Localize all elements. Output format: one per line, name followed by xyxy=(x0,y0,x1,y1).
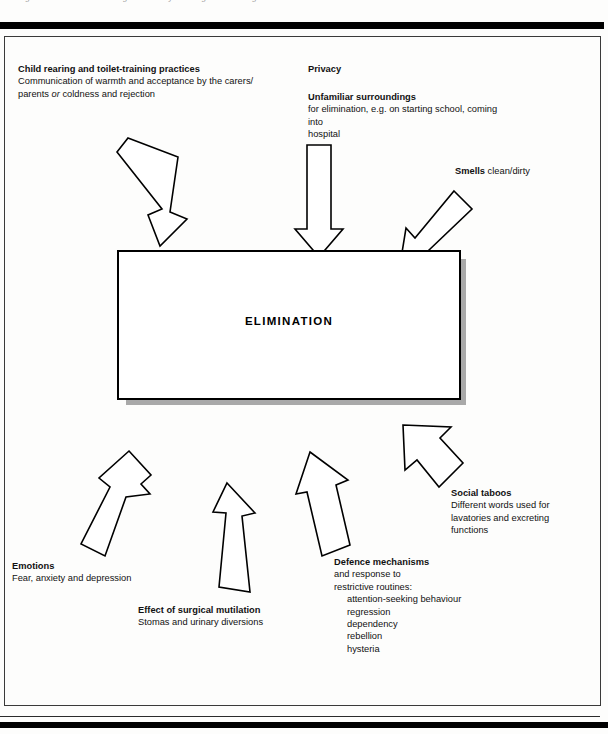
label-social-taboos-heading: Social taboos xyxy=(451,487,601,499)
label-privacy: Privacy xyxy=(308,63,508,75)
label-emotions: Emotions Fear, anxiety and depression xyxy=(12,560,212,585)
label-defence-line-2: restrictive routines: xyxy=(334,581,504,593)
label-unfamiliar-line-1: for elimination, e.g. on starting school… xyxy=(308,103,513,128)
arrow-privacy-unfamiliar xyxy=(295,145,343,257)
bottom-hairline xyxy=(0,716,600,717)
label-effect-line-1: Stomas and urinary diversions xyxy=(138,616,358,628)
label-social-taboos-line-2: lavatories and excreting xyxy=(451,512,601,524)
label-effect-heading: Effect of surgical mutilation xyxy=(138,604,358,616)
label-defence-sub-4: rebellion xyxy=(334,630,504,642)
bottom-rule xyxy=(0,722,608,728)
label-defence-heading: Defence mechanisms xyxy=(334,556,504,568)
label-child-rearing-line-1: Communication of warmth and acceptance b… xyxy=(18,75,288,87)
label-defence-mechanisms: Defence mechanisms and response to restr… xyxy=(334,556,504,655)
arrow-social-taboos xyxy=(403,425,463,487)
center-box-label: ELIMINATION xyxy=(245,315,333,327)
label-social-taboos: Social taboos Different words used for l… xyxy=(451,487,601,537)
label-smells: Smells clean/dirty xyxy=(455,165,595,177)
arrow-defence-mechanisms xyxy=(296,452,350,556)
label-child-rearing-line-2: parents or coldness and rejection xyxy=(18,88,288,100)
label-child-rearing-heading: Child rearing and toilet-training practi… xyxy=(18,63,288,75)
arrow-child-rearing xyxy=(117,138,187,246)
label-defence-sub-2: regression xyxy=(334,606,504,618)
label-smells-text: clean/dirty xyxy=(488,166,530,176)
label-defence-line-1: and response to xyxy=(334,568,504,580)
label-emotions-heading: Emotions xyxy=(12,560,212,572)
label-effect-surgical: Effect of surgical mutilation Stomas and… xyxy=(138,604,358,629)
label-smells-heading: Smells xyxy=(455,166,485,176)
label-unfamiliar-line-2: hospital xyxy=(308,128,513,140)
label-defence-sub-3: dependency xyxy=(334,618,504,630)
label-unfamiliar-surroundings: Unfamiliar surroundings for elimination,… xyxy=(308,91,513,141)
label-defence-sub-5: hysteria xyxy=(334,643,504,655)
label-smells-line: Smells clean/dirty xyxy=(455,165,595,177)
arrow-effect-surgical xyxy=(213,483,255,592)
diagram-page: Figure 1 Factors influencing the activit… xyxy=(0,0,608,734)
label-child-rearing-line-2-text: parents or coldness and rejection xyxy=(18,89,155,99)
arrow-emotions xyxy=(81,451,151,556)
label-child-rearing: Child rearing and toilet-training practi… xyxy=(18,63,288,100)
label-emotions-line-1: Fear, anxiety and depression xyxy=(12,572,212,584)
label-privacy-heading: Privacy xyxy=(308,63,508,75)
label-unfamiliar-heading: Unfamiliar surroundings xyxy=(308,91,513,103)
label-social-taboos-line-3: functions xyxy=(451,524,601,536)
label-defence-sub-1: attention-seeking behaviour xyxy=(334,593,504,605)
label-social-taboos-line-1: Different words used for xyxy=(451,499,601,511)
center-box: ELIMINATION xyxy=(117,250,461,400)
